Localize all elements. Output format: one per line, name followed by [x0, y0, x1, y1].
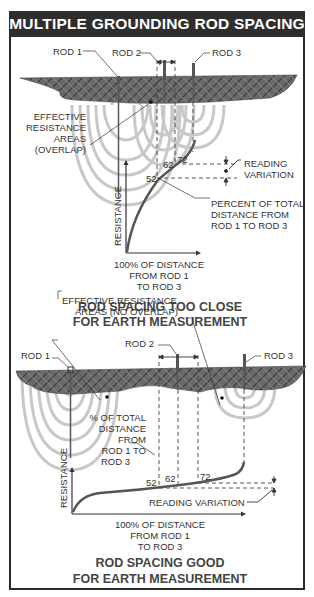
area-point-rod1 [105, 395, 109, 399]
soil-layer [16, 366, 306, 394]
panel-good: EFFECTIVE RESISTANCE AREAS (NO OVERLAP) … [16, 291, 306, 586]
percent-label-line2: DISTANCE FROM [211, 209, 289, 220]
y-axis-label: RESISTANCE [58, 448, 69, 508]
area-label-line3: AREAS [54, 133, 86, 144]
rod2-label: ROD 2 [112, 47, 141, 58]
caption-good-line1: ROD SPACING GOOD [96, 556, 225, 570]
overlap-point [149, 100, 153, 104]
percent-label-line1: PERCENT OF TOTAL [211, 198, 304, 209]
x-axis-label-line3: TO ROD 3 [138, 541, 183, 552]
soil-layer [20, 75, 297, 103]
caption-good-line2: FOR EARTH MEASUREMENT [73, 572, 248, 586]
x-axis-label-line2: FROM ROD 1 [129, 270, 189, 281]
area-label-line1: EFFECTIVE RESISTANCE [62, 295, 177, 306]
marker-72: 72 [177, 154, 188, 165]
area-label-line2: RESISTANCE [26, 122, 86, 133]
marker-62: 62 [165, 473, 176, 484]
rod1-label: ROD 1 [21, 350, 50, 361]
reading-variation-bracket [247, 476, 276, 502]
x-axis-label-line1: 100% OF DISTANCE [115, 519, 205, 530]
percent-label-line1: % OF TOTAL [90, 412, 147, 423]
rod1-label: ROD 1 [53, 46, 82, 57]
x-axis-label-line2: FROM ROD 1 [130, 530, 190, 541]
reading-variation-label: READING VARIATION [149, 497, 245, 508]
percent-label-line3: ROD 1 TO ROD 3 [211, 220, 287, 231]
x-axis-label-line1: 100% OF DISTANCE [114, 259, 204, 270]
percent-label-line4: ROD 1 TO [101, 445, 146, 456]
marker-52: 52 [146, 477, 157, 488]
reading-variation-bracket [224, 156, 241, 186]
x-axis-label-line3: TO ROD 3 [137, 281, 182, 292]
rod3-label: ROD 3 [264, 350, 293, 361]
rod2-label: ROD 2 [125, 338, 154, 349]
panel-too-close: ROD 1 ROD 2 ROD 3 EFFECTIVE RESISTANCE A… [20, 46, 304, 329]
rod3-label: ROD 3 [212, 47, 241, 58]
percent-label-line3: FROM [118, 434, 146, 445]
area-point-rod3 [220, 396, 224, 400]
area-label-line2: AREAS (NO OVERLAP) [75, 306, 178, 317]
marker-52: 52 [146, 173, 157, 184]
marker-62: 62 [163, 159, 174, 170]
graph-good [70, 462, 247, 517]
caption-too-close-line2: FOR EARTH MEASUREMENT [73, 315, 248, 329]
marker-72: 72 [200, 471, 211, 482]
diagram-canvas: ROD 1 ROD 2 ROD 3 EFFECTIVE RESISTANCE A… [0, 0, 314, 597]
percent-label-line2: DISTANCE [99, 423, 146, 434]
area-label-line4: (OVERLAP) [35, 144, 86, 155]
y-axis-label: RESISTANCE [112, 186, 123, 246]
percent-label-line5: ROD 3 [101, 456, 130, 467]
reading-variation-line2: VARIATION [244, 169, 294, 180]
reading-variation-line1: READING [244, 158, 287, 169]
area-label-line1: EFFECTIVE [34, 111, 86, 122]
